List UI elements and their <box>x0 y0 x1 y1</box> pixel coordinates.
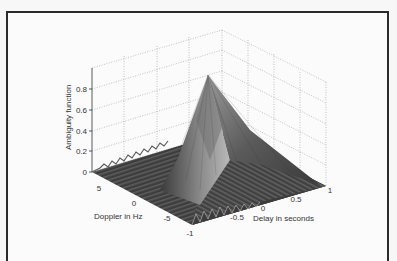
x-tick--1: -1 <box>186 229 194 238</box>
z-axis: 0 0.2 0.4 0.6 0.8 Ambiguity function <box>64 68 92 177</box>
y-tick-5: 5 <box>97 184 102 193</box>
z-tick-0: 0 <box>83 168 88 177</box>
y-axis-label: Doppler in Hz <box>94 212 142 221</box>
x-axis-label: Delay in seconds <box>253 214 314 223</box>
z-tick-0.6: 0.6 <box>76 106 88 115</box>
z-axis-label: Ambiguity function <box>64 85 73 150</box>
x-tick-0.5: 0.5 <box>290 195 302 204</box>
x-tick-0: 0 <box>261 204 266 213</box>
z-tick-0.8: 0.8 <box>76 85 88 94</box>
y-tick-0: 0 <box>132 199 137 208</box>
x-tick-1: 1 <box>328 186 333 195</box>
z-tick-0.4: 0.4 <box>76 127 88 136</box>
y-tick--5: -5 <box>163 214 171 223</box>
z-tick-0.2: 0.2 <box>76 147 88 156</box>
x-tick--0.5: -0.5 <box>230 213 244 222</box>
